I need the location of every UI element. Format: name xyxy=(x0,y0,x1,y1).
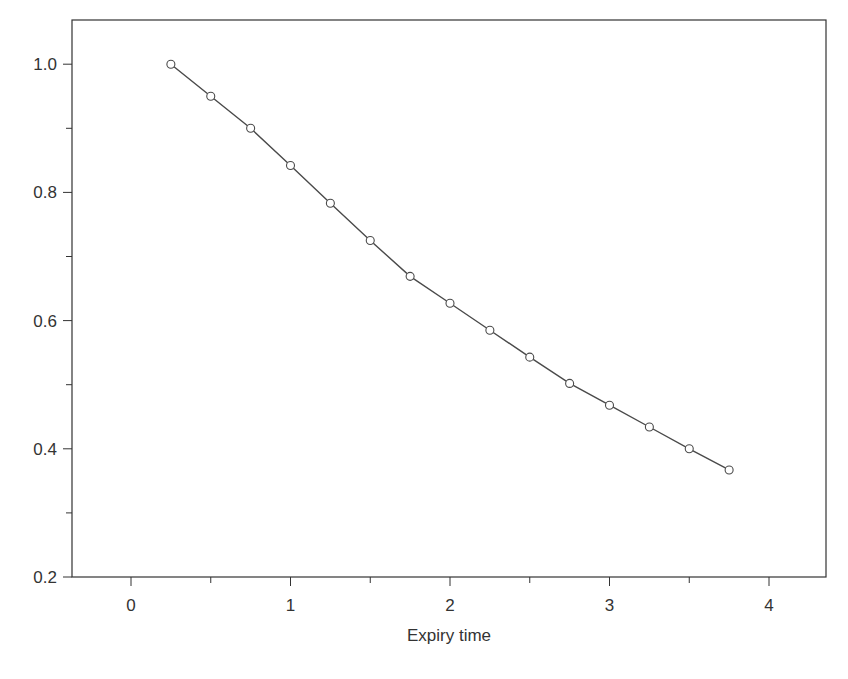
data-point-marker xyxy=(207,92,215,100)
series-line xyxy=(171,64,729,470)
y-tick-label: 0.2 xyxy=(33,568,57,587)
data-point-marker xyxy=(406,272,414,280)
data-point-marker xyxy=(725,466,733,474)
data-point-marker xyxy=(606,401,614,409)
y-axis: 0.20.40.60.81.0 xyxy=(33,55,72,587)
data-point-marker xyxy=(366,236,374,244)
x-axis-label: Expiry time xyxy=(407,626,491,645)
data-point-marker xyxy=(486,326,494,334)
data-point-marker xyxy=(446,299,454,307)
data-point-marker xyxy=(167,60,175,68)
x-tick-label: 4 xyxy=(764,596,773,615)
data-point-marker xyxy=(566,379,574,387)
x-tick-label: 1 xyxy=(286,596,295,615)
data-point-marker xyxy=(247,124,255,132)
y-tick-label: 0.8 xyxy=(33,183,57,202)
data-point-marker xyxy=(685,445,693,453)
plot-frame xyxy=(72,20,826,577)
line-chart: 01234 0.20.40.60.81.0 Expiry time xyxy=(0,0,848,679)
x-axis: 01234 xyxy=(126,577,773,615)
x-tick-label: 2 xyxy=(445,596,454,615)
x-tick-label: 0 xyxy=(126,596,135,615)
y-tick-label: 1.0 xyxy=(33,55,57,74)
x-tick-label: 3 xyxy=(605,596,614,615)
data-point-marker xyxy=(287,161,295,169)
data-series xyxy=(167,60,733,474)
y-tick-label: 0.6 xyxy=(33,312,57,331)
data-point-marker xyxy=(326,199,334,207)
y-tick-label: 0.4 xyxy=(33,440,57,459)
data-point-marker xyxy=(645,423,653,431)
data-point-marker xyxy=(526,353,534,361)
